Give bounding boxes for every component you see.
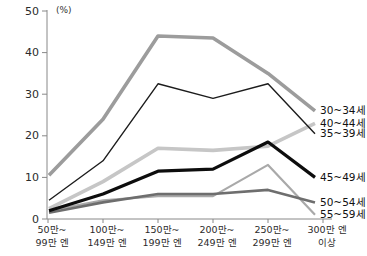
x-tick-label-line1: 200만~ [199,224,234,235]
series-label-55~59세: 55~59세 [320,208,366,220]
y-tick-label: 50 [25,5,39,18]
x-tick-label-line2: 199만 엔 [142,237,181,248]
y-tick-label: 10 [25,171,39,184]
chart-plot-area: 0102030405050만~99만 엔100만~149만 엔150만~199만… [0,0,367,256]
y-tick-label: 30 [25,88,39,101]
x-tick-label-line2: 이상 [318,237,336,248]
y-tick-label: 20 [25,129,39,142]
percent-unit-label: (%) [56,5,72,15]
x-tick-label-line2: 149만 엔 [87,237,126,248]
x-tick-label-line2: 249만 엔 [197,237,236,248]
series-line-30~34세 [49,36,315,175]
x-tick-label-line1: 150만~ [144,224,179,235]
y-tick-label: 40 [25,46,39,59]
x-tick-label-line1: 100만~ [89,224,124,235]
x-tick-label-line2: 99만 엔 [35,237,68,248]
series-label-50~54세: 50~54세 [320,196,366,208]
x-tick-label-line1: 50만~ [37,224,66,235]
line-chart: (%) 0102030405050만~99만 엔100만~149만 엔150만~… [0,0,367,256]
x-tick-label-line2: 299만 엔 [252,237,291,248]
x-tick-label-line1: 250만~ [254,224,289,235]
series-label-30~34세: 30~34세 [320,104,366,116]
series-label-35~39세: 35~39세 [320,127,366,139]
series-line-50~54세 [49,190,315,213]
series-label-45~49세: 45~49세 [320,171,366,183]
x-tick-label-line1: 300만 엔 [307,224,346,235]
series-line-45~49세 [49,142,315,211]
